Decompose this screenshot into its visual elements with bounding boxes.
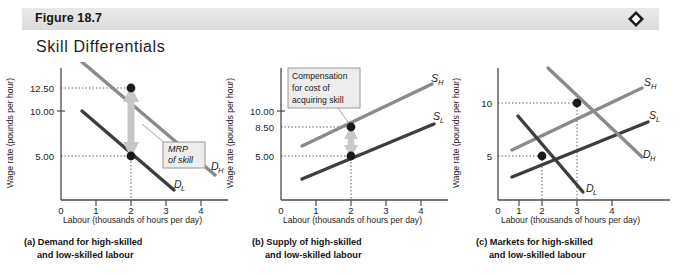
panel-c-plot: S H S L D H D L 10 5 0 1 2 3 <box>452 62 679 218</box>
panel-b-ytick-2: 5.00 <box>255 151 274 162</box>
panel-b-label-SH: S <box>431 72 438 84</box>
panel-c-xtick-4: 4 <box>609 205 615 214</box>
panel-a-xtick-4: 4 <box>198 205 204 214</box>
panel-a-callout-mrp: MRP of skill <box>163 142 205 168</box>
panel-b-ytick-1: 8.50 <box>255 122 274 133</box>
panel-c-xtick-0: 0 <box>495 205 500 214</box>
panel-b-xtick-4: 4 <box>418 205 424 214</box>
panel-b-callout-line-1: Compensation <box>292 71 348 81</box>
panel-b-label-SL-sub: L <box>440 116 444 125</box>
panel-b-curve-SL <box>302 124 434 179</box>
panel-a-callout-line-2: of skill <box>168 155 194 165</box>
panel-b-callout-compensation: Compensation for cost of acquiring skill <box>288 68 360 108</box>
panel-a-plot: MRP of skill D H D L 12.50 10.00 5.00 <box>6 62 233 218</box>
panel-c-label-DL-sub: L <box>593 188 597 197</box>
panel-c-xtick-2: 2 <box>539 205 544 214</box>
panel-a-ytick-0: 12.50 <box>30 83 54 94</box>
panel-b-xtick-2: 2 <box>348 205 353 214</box>
panel-a-callout-leader <box>142 124 166 144</box>
panel-b-xtick-3: 3 <box>383 205 388 214</box>
panel-c-markets: Wage rate (pounds per hour) <box>452 62 679 237</box>
panel-b-xtick-0: 0 <box>278 205 283 214</box>
captions-container: (a) Demand for high-skilled and low-skil… <box>0 236 681 275</box>
panel-a-xtick-3: 3 <box>163 205 168 214</box>
figure-number: Figure 18.7 <box>35 11 102 25</box>
panel-c-label-SH: S <box>644 76 651 88</box>
caption-c-line-2: and low-skilled labour <box>476 249 681 262</box>
panels-container: Wage rate (pounds per hour) <box>0 62 681 237</box>
figure-header-bar: Figure 18.7 <box>22 8 659 30</box>
panel-b-ytick-0: 10.00 <box>250 106 274 117</box>
panel-c-xtick-1: 1 <box>516 205 521 214</box>
panel-b-point-high <box>347 123 356 132</box>
panel-c-label-SH-sub: H <box>651 82 657 91</box>
panel-a-xtick-1: 1 <box>93 205 98 214</box>
panel-c-x-axis-label: Labour (thousands of hours per day) <box>470 215 671 225</box>
panel-c-label-DH-sub: H <box>650 154 656 163</box>
panel-b-xtick-1: 1 <box>313 205 318 214</box>
panel-a-point-high <box>127 84 136 93</box>
panel-b-point-low <box>347 152 356 161</box>
panel-a-ytick-2: 5.00 <box>35 151 54 162</box>
caption-a-line-1: (a) Demand for high-skilled <box>24 236 234 249</box>
panel-b-plot: Compensation for cost of acquiring skill… <box>226 62 453 218</box>
panel-c-xtick-3: 3 <box>574 205 579 214</box>
diamond-nav-icon[interactable] <box>627 10 645 28</box>
page-title: Skill Differentials <box>36 38 165 56</box>
panel-b-supply: Wage rate (pounds per hour) <box>226 62 453 237</box>
panel-c-ytick-0: 10 <box>481 98 492 109</box>
caption-b-line-2: and low-skilled labour <box>252 249 462 262</box>
panel-b-x-axis-label: Labour (thousands of hours per day) <box>252 215 453 225</box>
caption-b-line-1: (b) Supply of high-skilled <box>252 236 462 249</box>
panel-c-ytick-1: 5 <box>487 151 492 162</box>
panel-c-point-high <box>573 99 582 108</box>
panel-a-label-DL-sub: L <box>181 184 185 193</box>
panel-b-y-axis-label: Wage rate (pounds per hour) <box>225 0 235 68</box>
panel-b-label-SL: S <box>433 110 440 122</box>
panel-b-callout-line-2: for cost of <box>292 83 330 93</box>
panel-a-xtick-2: 2 <box>128 205 133 214</box>
panel-a-point-low <box>127 152 136 161</box>
panel-c-label-SL: S <box>649 109 656 121</box>
caption-b: (b) Supply of high-skilled and low-skill… <box>252 236 462 263</box>
panel-c-point-low <box>538 152 547 161</box>
caption-c: (c) Markets for high-skilled and low-ski… <box>476 236 681 263</box>
panel-a-xtick-0: 0 <box>58 205 63 214</box>
panel-c-label-SL-sub: L <box>656 115 660 124</box>
panel-a-ytick-1: 10.00 <box>30 106 54 117</box>
panel-b-label-SH-sub: H <box>438 78 444 87</box>
caption-a-line-2: and low-skilled labour <box>24 249 234 262</box>
panel-a-x-axis-label: Labour (thousands of hours per day) <box>32 215 233 225</box>
caption-a: (a) Demand for high-skilled and low-skil… <box>24 236 234 263</box>
caption-c-line-1: (c) Markets for high-skilled <box>476 236 681 249</box>
panel-a-y-axis-label: Wage rate (pounds per hour) <box>5 0 15 68</box>
panel-a-demand: Wage rate (pounds per hour) <box>6 62 233 237</box>
panel-a-label-DH-sub: H <box>218 166 224 175</box>
panel-b-callout-line-3: acquiring skill <box>292 95 344 105</box>
panel-a-callout-line-1: MRP <box>168 144 188 154</box>
panel-c-y-axis-label: Wage rate (pounds per hour) <box>451 0 461 68</box>
